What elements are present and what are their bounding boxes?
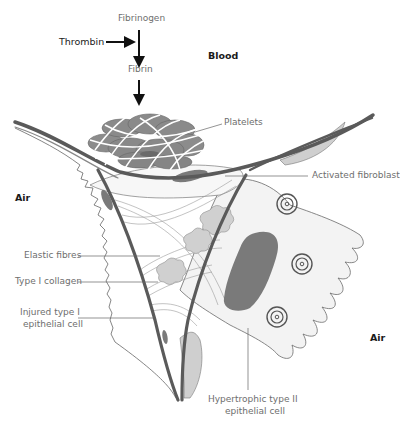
- hypertrophic-label-line2: epithelial cell: [225, 406, 285, 417]
- injured-cell-nucleus-2: [161, 330, 168, 345]
- fibrin-label: Fibrin: [128, 64, 153, 75]
- thrombin-label: Thrombin: [59, 36, 104, 47]
- activated-fibroblast-label: Activated fibroblast: [312, 170, 400, 181]
- air-left-region-label: Air: [15, 192, 30, 203]
- hypertrophic-label-line1: Hypertrophic type II: [208, 394, 298, 405]
- platelets-label: Platelets: [224, 117, 263, 128]
- air-right-region-label: Air: [370, 332, 385, 343]
- upper-right-type1-cell: [280, 122, 345, 165]
- platelet-clot: [88, 114, 205, 170]
- elastic-fibres-label: Elastic fibres: [24, 250, 81, 261]
- injured-type1-label-line1: Injured type I: [20, 307, 80, 318]
- injured-type1-label-line2: epithelial cell: [23, 319, 83, 330]
- blood-region-label: Blood: [208, 50, 238, 61]
- type1-collagen-label: Type I collagen: [15, 276, 82, 287]
- fibrinogen-label: Fibrinogen: [118, 13, 165, 24]
